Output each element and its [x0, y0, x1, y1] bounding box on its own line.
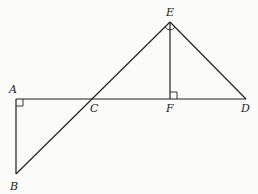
- point-label-F: F: [165, 102, 174, 115]
- point-label-E: E: [165, 6, 174, 19]
- segment-ED: [170, 22, 246, 99]
- segment-BE: [16, 22, 170, 174]
- right-angle-marker-F: [170, 92, 177, 99]
- point-label-A: A: [8, 83, 17, 96]
- right-angle-marker-A: [16, 99, 23, 106]
- point-label-B: B: [9, 180, 18, 193]
- point-label-C: C: [90, 102, 99, 115]
- geometry-diagram: A B C D E F: [0, 0, 258, 194]
- point-label-D: D: [240, 102, 250, 115]
